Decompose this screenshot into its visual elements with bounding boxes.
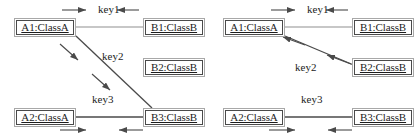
object-box-b3[interactable]: B3:ClassB	[143, 108, 205, 127]
link-label-key1: key1	[98, 4, 119, 15]
object-box-b1-inner: B1:ClassB	[145, 20, 203, 35]
left-diagram: A1:ClassA B1:ClassB B2:ClassB A2:ClassA …	[0, 0, 208, 138]
object-label-b2: B2:ClassB	[360, 62, 406, 73]
link-label-key2: key2	[295, 62, 316, 73]
object-box-a2-inner: A2:ClassA	[16, 110, 74, 125]
object-box-b2-inner: B2:ClassB	[354, 60, 412, 75]
arrow-key2-lower	[327, 55, 351, 64]
object-label-b2: B2:ClassB	[151, 62, 197, 73]
object-label-a1: A1:ClassA	[230, 22, 277, 33]
object-box-b2[interactable]: B2:ClassB	[352, 58, 414, 77]
arrow-key2-upper	[60, 44, 78, 60]
arrow-key2-upper	[283, 37, 305, 45]
object-box-b3-inner: B3:ClassB	[145, 110, 203, 125]
object-box-b3[interactable]: B3:ClassB	[352, 108, 414, 127]
object-box-a1-inner: A1:ClassA	[16, 20, 74, 35]
object-label-b1: B1:ClassB	[360, 22, 406, 33]
link-line-key2	[76, 36, 152, 108]
object-box-a2[interactable]: A2:ClassA	[223, 108, 285, 127]
object-box-a1[interactable]: A1:ClassA	[223, 18, 285, 37]
link-label-key3: key3	[301, 94, 322, 105]
object-label-b3: B3:ClassB	[360, 112, 406, 123]
link-label-key2: key2	[102, 51, 123, 62]
object-box-b2[interactable]: B2:ClassB	[143, 58, 205, 77]
diagram-canvas: A1:ClassA B1:ClassB B2:ClassB A2:ClassA …	[0, 0, 417, 138]
object-box-b1[interactable]: B1:ClassB	[352, 18, 414, 37]
object-box-b2-inner: B2:ClassB	[145, 60, 203, 75]
object-label-a2: A2:ClassA	[230, 112, 277, 123]
right-diagram: A1:ClassA B1:ClassB B2:ClassB A2:ClassA …	[209, 0, 417, 138]
object-box-a1[interactable]: A1:ClassA	[14, 18, 76, 37]
object-box-a2-inner: A2:ClassA	[225, 110, 283, 125]
object-label-a1: A1:ClassA	[21, 22, 68, 33]
object-label-b1: B1:ClassB	[151, 22, 197, 33]
object-box-b1[interactable]: B1:ClassB	[143, 18, 205, 37]
object-box-a1-inner: A1:ClassA	[225, 20, 283, 35]
object-box-b1-inner: B1:ClassB	[354, 20, 412, 35]
link-label-key1: key1	[307, 4, 328, 15]
arrow-key2-lower	[92, 74, 110, 90]
object-label-b3: B3:ClassB	[151, 112, 197, 123]
object-label-a2: A2:ClassA	[21, 112, 68, 123]
object-box-a2[interactable]: A2:ClassA	[14, 108, 76, 127]
object-box-b3-inner: B3:ClassB	[354, 110, 412, 125]
link-label-key3: key3	[92, 94, 113, 105]
